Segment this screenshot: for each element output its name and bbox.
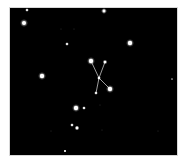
- field-star: [128, 41, 132, 45]
- field-star: [74, 106, 78, 110]
- constellation-stars: [87, 57, 114, 95]
- field-star: [158, 131, 159, 132]
- field-star: [100, 105, 101, 106]
- constellation-star: [95, 92, 97, 94]
- field-star: [64, 150, 66, 152]
- field-star: [66, 43, 68, 45]
- constellation-star: [108, 87, 112, 91]
- image-frame: [0, 0, 183, 164]
- field-star: [22, 21, 26, 25]
- field-star: [102, 130, 103, 131]
- field-star: [83, 107, 85, 109]
- star-chart: [0, 0, 183, 164]
- field-star: [26, 9, 28, 11]
- field-star: [74, 29, 75, 30]
- field-star: [51, 131, 52, 132]
- field-star: [171, 78, 172, 79]
- constellation-line: [96, 78, 99, 93]
- constellation-star: [98, 77, 100, 79]
- field-star: [103, 10, 106, 13]
- constellation-star: [104, 61, 107, 64]
- field-star: [40, 74, 44, 78]
- constellation-star: [89, 59, 93, 63]
- field-star: [61, 29, 62, 30]
- field-stars: [20, 8, 173, 153]
- constellation-line: [99, 62, 105, 78]
- field-star: [71, 124, 73, 126]
- field-star: [76, 127, 79, 130]
